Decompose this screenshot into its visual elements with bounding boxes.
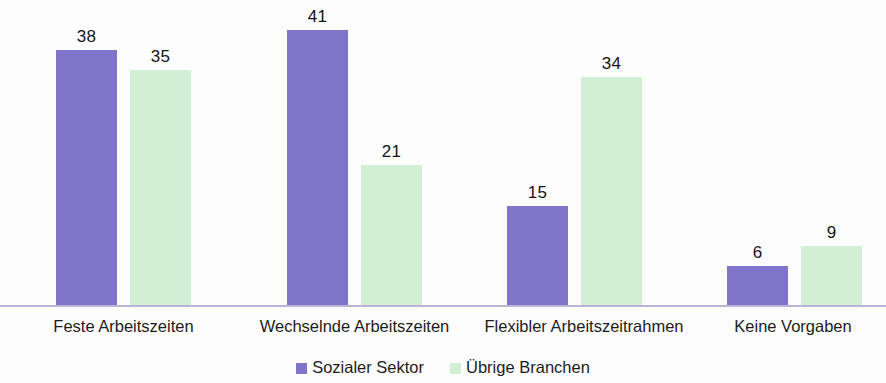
bar-sozialer-sektor [727,266,788,307]
bar-group: 15 34 [507,0,642,307]
category-label-3: Keine Vorgaben [700,314,886,338]
bar-sozialer-sektor [507,206,568,307]
bar-group: 41 21 [287,0,422,307]
bar-value-label: 34 [602,54,621,73]
bar-value-label: 35 [151,47,170,66]
bar-value-label: 9 [827,223,837,242]
legend-swatch-icon [450,363,461,374]
category-label-0: Feste Arbeitszeiten [11,314,236,338]
chart-legend: Sozialer Sektor Übrige Branchen [0,355,886,379]
bar-uebrige-branchen [801,246,862,307]
bar-uebrige-branchen [361,165,422,307]
category-label-1: Wechselnde Arbeitszeiten [232,314,477,338]
bar-value-label: 41 [308,7,327,26]
bar-sozialer-sektor [287,30,348,307]
bar-value-label: 6 [753,243,763,262]
bar-uebrige-branchen [581,77,642,307]
bar-value-label: 15 [528,183,547,202]
bar-sozialer-sektor [56,50,117,307]
legend-label: Übrige Branchen [466,357,590,377]
x-axis-line [0,305,886,307]
legend-swatch-icon [296,363,307,374]
bar-chart: 38 35 41 21 15 [0,0,886,383]
category-axis-labels: Feste Arbeitszeiten Wechselnde Arbeitsze… [0,314,886,340]
legend-item-sozialer-sektor[interactable]: Sozialer Sektor [296,357,424,377]
bar-uebrige-branchen [130,70,191,307]
legend-item-uebrige-branchen[interactable]: Übrige Branchen [450,357,590,377]
bar-group: 38 35 [56,0,191,307]
plot-area: 38 35 41 21 15 [0,0,886,307]
legend-label: Sozialer Sektor [312,357,424,377]
bar-value-label: 21 [382,142,401,161]
bar-group: 6 9 [727,0,862,307]
bar-value-label: 38 [77,27,96,46]
category-label-2: Flexibler Arbeitszeitrahmen [460,314,708,338]
